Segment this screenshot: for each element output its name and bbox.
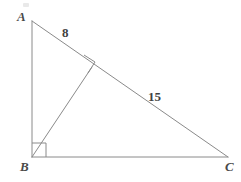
segment-dc-length-label: 15 bbox=[148, 90, 161, 103]
segment-ad-length-label: 8 bbox=[62, 26, 69, 39]
geometry-diagram: A B C 8 15 bbox=[0, 0, 241, 182]
right-angle-mark-at-b bbox=[32, 143, 46, 157]
vertex-label-a: A bbox=[17, 10, 26, 23]
vertex-label-b: B bbox=[20, 160, 29, 173]
vertex-label-c: C bbox=[225, 160, 234, 173]
side-ac-line bbox=[32, 21, 228, 157]
triangle-figure bbox=[0, 0, 241, 182]
